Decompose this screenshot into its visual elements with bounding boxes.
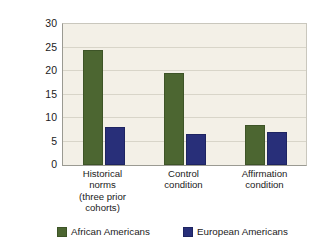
bar	[267, 132, 287, 165]
x-axis-category-label-line: Historical	[62, 168, 143, 179]
chart-legend: African Americans European Americans	[57, 225, 327, 241]
x-axis-category-labels: Historicalnorms(three priorcohorts)Contr…	[62, 168, 307, 220]
x-axis-category-label: Affirmationcondition	[224, 168, 305, 191]
bar-group	[144, 24, 225, 165]
bar	[83, 50, 103, 165]
plot-inner	[63, 24, 306, 165]
y-axis-tick-label: 0	[51, 159, 57, 169]
bar-group	[225, 24, 306, 165]
bar	[164, 73, 184, 165]
x-axis-category-label-line: (three prior	[62, 191, 143, 202]
bar	[105, 127, 125, 165]
y-axis-title: Percentage of students earning a D or be…	[0, 18, 34, 170]
x-axis-category-label-line: Affirmation	[224, 168, 305, 179]
bar	[186, 134, 206, 165]
x-axis-category-label: Historicalnorms(three priorcohorts)	[62, 168, 143, 214]
legend-item-african-americans: African Americans	[57, 225, 150, 238]
legend-label-european-americans: European Americans	[197, 226, 288, 237]
bar-chart-figure: Percentage of students earning a D or be…	[0, 0, 334, 246]
legend-swatch-icon-green	[57, 227, 67, 237]
y-axis-tick-label: 5	[51, 136, 57, 146]
y-axis-tick-labels: 051015202530	[34, 13, 60, 171]
y-axis-tick-label: 15	[45, 89, 57, 99]
bar	[245, 125, 265, 165]
y-axis-tick-label: 30	[45, 18, 57, 28]
x-axis-category-label-line: norms	[62, 179, 143, 190]
plot-area	[62, 23, 307, 166]
bar-group	[63, 24, 144, 165]
legend-swatch-icon-blue	[183, 227, 193, 237]
legend-item-european-americans: European Americans	[183, 225, 288, 238]
x-axis-category-label-line: condition	[143, 179, 224, 190]
x-axis-category-label-line: Control	[143, 168, 224, 179]
x-axis-category-label-line: cohorts)	[62, 202, 143, 213]
y-axis-tick-label: 20	[45, 65, 57, 75]
y-axis-tick-label: 10	[45, 112, 57, 122]
y-axis-tick-label: 25	[45, 42, 57, 52]
x-axis-category-label-line: condition	[224, 179, 305, 190]
x-axis-category-label: Controlcondition	[143, 168, 224, 191]
legend-label-african-americans: African Americans	[71, 226, 150, 237]
